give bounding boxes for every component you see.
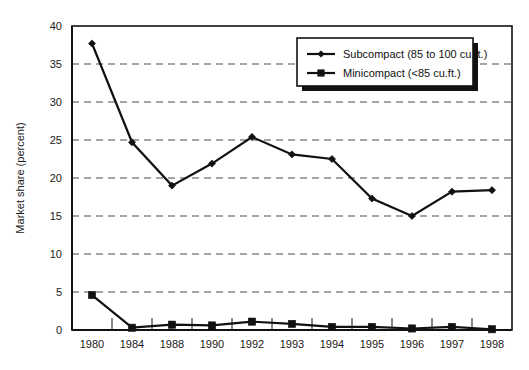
diamond-marker-icon xyxy=(88,40,95,47)
chart-container: Market share (percent) 0510152025303540 … xyxy=(0,0,529,370)
series-2 xyxy=(88,291,495,332)
y-tick-label: 30 xyxy=(50,96,62,108)
x-tick-label: 1995 xyxy=(360,338,384,350)
x-tick-label: 1984 xyxy=(120,338,144,350)
square-marker-icon xyxy=(328,323,335,330)
market-share-line-chart: Market share (percent) 0510152025303540 … xyxy=(0,0,529,370)
chart-legend: Subcompact (85 to 100 cu.ft.)Minicompact… xyxy=(297,38,487,91)
square-marker-icon xyxy=(368,323,375,330)
legend-entry-label: Minicompact (<85 cu.ft.) xyxy=(343,67,461,79)
square-marker-icon xyxy=(128,324,135,331)
x-tick-label: 1993 xyxy=(280,338,304,350)
y-tick-label: 25 xyxy=(50,134,62,146)
square-marker-icon xyxy=(168,321,175,328)
y-tick-label: 15 xyxy=(50,210,62,222)
y-tick-labels: 0510152025303540 xyxy=(50,20,62,336)
y-tick-label: 5 xyxy=(56,286,62,298)
x-tick-labels: 1980198419881990199219931994199519961997… xyxy=(80,338,504,350)
y-tick-label: 10 xyxy=(50,248,62,260)
x-tick-label: 1997 xyxy=(440,338,464,350)
diamond-marker-icon xyxy=(488,187,495,194)
square-marker-icon xyxy=(448,323,455,330)
x-tick-label: 1990 xyxy=(200,338,224,350)
x-tick-label: 1980 xyxy=(80,338,104,350)
legend-entry-label: Subcompact (85 to 100 cu.ft.) xyxy=(343,48,487,60)
y-tick-label: 35 xyxy=(50,58,62,70)
square-marker-icon xyxy=(208,322,215,329)
x-tick-label: 1996 xyxy=(400,338,424,350)
square-marker-icon xyxy=(488,326,495,333)
y-tick-label: 20 xyxy=(50,172,62,184)
square-marker-icon xyxy=(408,325,415,332)
square-marker-icon xyxy=(288,320,295,327)
x-tick-label: 1988 xyxy=(160,338,184,350)
x-tick-label: 1998 xyxy=(480,338,504,350)
gridlines xyxy=(72,64,512,292)
x-tick-label: 1994 xyxy=(320,338,344,350)
y-axis-title: Market share (percent) xyxy=(14,122,26,233)
y-tick-label: 40 xyxy=(50,20,62,32)
square-marker-icon xyxy=(88,291,95,298)
y-tick-label: 0 xyxy=(56,324,62,336)
square-marker-icon xyxy=(248,318,255,325)
square-marker-icon xyxy=(317,69,324,76)
x-tick-label: 1992 xyxy=(240,338,264,350)
diamond-marker-icon xyxy=(288,151,295,158)
